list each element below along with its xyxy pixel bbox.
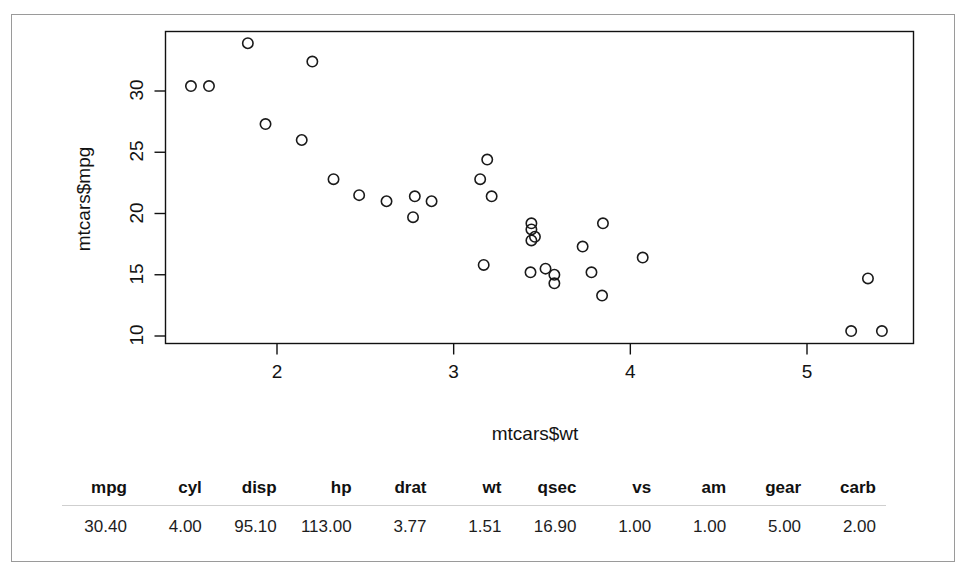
x-tick-label: 5 [787,361,827,383]
table-column-header: qsec [511,478,586,506]
table-column-header: vs [586,478,661,506]
scatter-point [525,267,535,277]
scatter-point [408,212,418,222]
scatter-point [297,135,307,145]
x-tick-label: 2 [257,361,297,383]
scatter-point [328,174,338,184]
table-column-header: mpg [62,478,137,506]
scatter-point [598,218,608,228]
x-tick-label: 4 [610,361,650,383]
scatter-point [638,252,648,262]
scatter-point [475,174,485,184]
scatter-point [381,196,391,206]
scatter-point [877,326,887,336]
table-column-header: hp [287,478,362,506]
table-column-header: drat [362,478,437,506]
table-column-header: cyl [137,478,212,506]
scatter-plot: mtcars$mpg mtcars$wt 2345 1015202530 [0,0,970,460]
scatter-point [354,190,364,200]
screenshot-page: mtcars$mpg mtcars$wt 2345 1015202530 mpg… [0,0,970,576]
plot-frame [166,32,914,344]
scatter-point [243,38,253,48]
scatter-point [479,260,489,270]
y-axis-ticks [155,91,166,336]
x-tick-label: 3 [434,361,474,383]
scatter-point [586,267,596,277]
scatter-point [482,154,492,164]
table-cell: 1.00 [586,506,661,538]
data-points [186,38,887,336]
table-column-header: gear [736,478,811,506]
scatter-point [597,290,607,300]
scatter-point [846,326,856,336]
table-cell: 3.77 [362,506,437,538]
data-table-container: mpgcyldisphpdratwtqsecvsamgearcarb 30.40… [62,478,892,537]
scatter-point [526,218,536,228]
scatter-point [260,119,270,129]
table-cell: 1.51 [437,506,512,538]
table-header-row: mpgcyldisphpdratwtqsecvsamgearcarb [62,478,886,506]
table-cell: 30.40 [62,506,137,538]
table-cell: 2.00 [811,506,886,538]
y-tick-label: 20 [126,193,148,233]
scatter-point [204,81,214,91]
y-tick-label: 25 [126,131,148,171]
x-axis-label: mtcars$wt [445,423,625,445]
scatter-point [577,241,587,251]
scatter-point [410,191,420,201]
scatter-point [426,196,436,206]
y-tick-label: 10 [126,315,148,355]
table-column-header: disp [212,478,287,506]
table-body: 30.404.0095.10113.003.771.5116.901.001.0… [62,506,886,538]
table-cell: 4.00 [137,506,212,538]
scatter-point [863,273,873,283]
scatter-point [486,191,496,201]
table-column-header: carb [811,478,886,506]
table-cell: 1.00 [661,506,736,538]
table-cell: 16.90 [511,506,586,538]
table-cell: 113.00 [287,506,362,538]
table-cell: 95.10 [212,506,287,538]
table-cell: 5.00 [736,506,811,538]
table-row: 30.404.0095.10113.003.771.5116.901.001.0… [62,506,886,538]
x-axis-ticks [277,344,807,355]
scatter-point [307,56,317,66]
table-column-header: am [661,478,736,506]
scatter-point [186,81,196,91]
table-column-header: wt [437,478,512,506]
y-axis-label: mtcars$mpg [73,109,95,289]
data-table: mpgcyldisphpdratwtqsecvsamgearcarb 30.40… [62,478,886,537]
y-tick-label: 15 [126,254,148,294]
y-tick-label: 30 [126,70,148,110]
